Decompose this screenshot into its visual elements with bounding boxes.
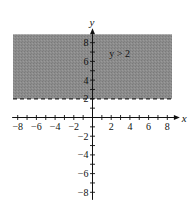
y-tick-label: 2 <box>84 93 89 104</box>
y-axis-label: y <box>89 16 95 28</box>
x-tick-label: 6 <box>146 121 151 132</box>
y-tick-label: −6 <box>78 168 89 179</box>
x-tick-label: 8 <box>165 121 170 132</box>
y-axis-arrow-icon <box>90 28 95 34</box>
y-tick-label: −2 <box>78 131 89 142</box>
x-axis-label: x <box>181 112 187 124</box>
y-tick-label: 8 <box>84 37 89 48</box>
inequality-graph: −8−6−4−224688642−2−4−6−8 x y y > 2 <box>0 0 194 206</box>
x-tick-label: −4 <box>50 121 61 132</box>
x-axis-arrow-icon <box>174 115 180 120</box>
x-tick-label: 4 <box>127 121 132 132</box>
y-tick-label: 4 <box>84 75 89 86</box>
y-tick-label: −4 <box>78 149 89 160</box>
y-tick-label: 6 <box>84 56 89 67</box>
inequality-label: y > 2 <box>109 48 130 59</box>
x-tick-label: −6 <box>31 121 42 132</box>
y-tick-label: −8 <box>78 187 89 198</box>
x-tick-label: 2 <box>109 121 114 132</box>
x-tick-label: −8 <box>12 121 23 132</box>
